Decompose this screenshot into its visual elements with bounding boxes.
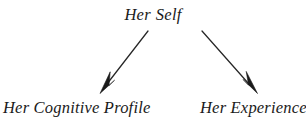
arrow-root-to-right-child [202,31,258,94]
node-her-cognitive-profile: Her Cognitive Profile [3,100,150,117]
arrow-root-to-left-child [100,31,148,94]
node-her-self-word-1: Her [124,5,150,24]
node-her-experiences: Her Experiences [200,100,306,117]
arrow-left-shaft [106,31,148,85]
arrow-right-shaft [202,31,250,85]
arrow-right-head [243,71,258,93]
node-her-self: HerSelf [0,7,306,24]
diagram-canvas: HerSelf Her Cognitive Profile Her Experi… [0,0,306,120]
arrow-left-head [100,72,115,94]
node-her-self-word-2: Self [156,5,182,24]
